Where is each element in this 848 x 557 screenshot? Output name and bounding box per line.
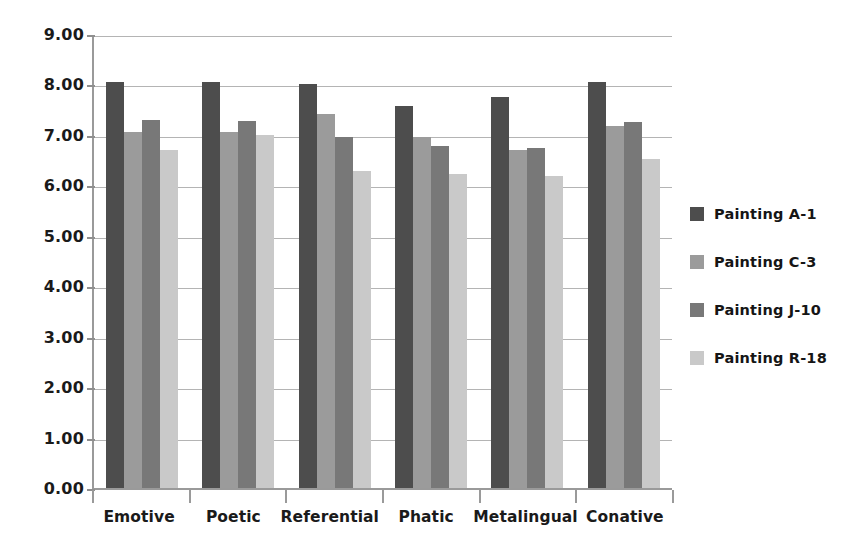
bar[interactable] xyxy=(299,84,317,488)
bar[interactable] xyxy=(202,82,220,488)
bar-group-bars xyxy=(287,36,383,488)
bar[interactable] xyxy=(413,137,431,488)
bar[interactable] xyxy=(527,148,545,489)
chart-legend: Painting A-1Painting C-3Painting J-10Pai… xyxy=(690,190,840,382)
bar-group-bars xyxy=(576,36,672,488)
x-axis-category-label: Conative xyxy=(578,508,672,536)
y-axis-tick-label: 3.00 xyxy=(14,328,84,347)
y-axis-labels: 9.008.007.006.005.004.003.002.001.000.00 xyxy=(8,36,84,490)
bar-chart: 9.008.007.006.005.004.003.002.001.000.00… xyxy=(0,0,848,557)
y-axis-tick-label: 4.00 xyxy=(14,277,84,296)
y-axis-tick-label: 1.00 xyxy=(14,429,84,448)
x-axis-tick xyxy=(479,490,481,503)
bar-group-bars xyxy=(383,36,479,488)
x-axis-tick xyxy=(575,490,577,503)
legend-item[interactable]: Painting C-3 xyxy=(690,238,840,286)
bar[interactable] xyxy=(395,106,413,488)
legend-label: Painting J-10 xyxy=(714,302,821,318)
x-axis-tick xyxy=(285,490,287,503)
x-axis-tick xyxy=(672,490,674,503)
legend-label: Painting A-1 xyxy=(714,206,817,222)
bar[interactable] xyxy=(509,150,527,488)
x-axis-category-label: Emotive xyxy=(92,508,186,536)
bar[interactable] xyxy=(545,176,563,488)
bar[interactable] xyxy=(160,150,178,488)
legend-swatch-icon xyxy=(690,255,704,269)
bar-group-bars xyxy=(190,36,286,488)
y-axis-tick-label: 5.00 xyxy=(14,227,84,246)
x-axis-category-label: Metalingual xyxy=(473,508,577,536)
legend-swatch-icon xyxy=(690,351,704,365)
y-axis-tick-label: 2.00 xyxy=(14,378,84,397)
bar[interactable] xyxy=(624,122,642,488)
y-axis-tick-label: 0.00 xyxy=(14,479,84,498)
bar-group xyxy=(287,36,383,488)
legend-label: Painting C-3 xyxy=(714,254,816,270)
y-axis-tick-label: 9.00 xyxy=(14,25,84,44)
x-axis-category-label: Referential xyxy=(281,508,380,536)
bar-group xyxy=(383,36,479,488)
x-axis-tick xyxy=(382,490,384,503)
bar[interactable] xyxy=(606,126,624,488)
legend-label: Painting R-18 xyxy=(714,350,827,366)
bar-group xyxy=(190,36,286,488)
bar-group xyxy=(576,36,672,488)
bar-group xyxy=(94,36,190,488)
plot-area xyxy=(92,36,672,490)
legend-swatch-icon xyxy=(690,303,704,317)
bar[interactable] xyxy=(335,137,353,488)
bar-group-bars xyxy=(479,36,575,488)
x-axis-labels: EmotivePoeticReferentialPhaticMetalingua… xyxy=(92,508,672,536)
x-axis-category-label: Poetic xyxy=(186,508,280,536)
bar[interactable] xyxy=(491,97,509,488)
bar[interactable] xyxy=(238,121,256,488)
bar[interactable] xyxy=(431,146,449,488)
bar[interactable] xyxy=(642,159,660,488)
legend-item[interactable]: Painting A-1 xyxy=(690,190,840,238)
bar[interactable] xyxy=(449,174,467,488)
bar[interactable] xyxy=(106,82,124,488)
x-axis-category-label: Phatic xyxy=(379,508,473,536)
bar-group xyxy=(479,36,575,488)
y-axis-tick-label: 6.00 xyxy=(14,176,84,195)
x-axis-tick xyxy=(92,490,94,503)
bar[interactable] xyxy=(588,82,606,488)
y-axis-tick-label: 8.00 xyxy=(14,75,84,94)
y-axis-tick-label: 7.00 xyxy=(14,126,84,145)
legend-item[interactable]: Painting R-18 xyxy=(690,334,840,382)
bar[interactable] xyxy=(256,135,274,488)
bar[interactable] xyxy=(317,114,335,488)
bar[interactable] xyxy=(220,132,238,488)
bar-groups xyxy=(94,36,672,488)
x-axis-tick xyxy=(189,490,191,503)
bar[interactable] xyxy=(353,171,371,488)
bar-group-bars xyxy=(94,36,190,488)
legend-item[interactable]: Painting J-10 xyxy=(690,286,840,334)
legend-swatch-icon xyxy=(690,207,704,221)
bar[interactable] xyxy=(142,120,160,488)
bar[interactable] xyxy=(124,132,142,488)
